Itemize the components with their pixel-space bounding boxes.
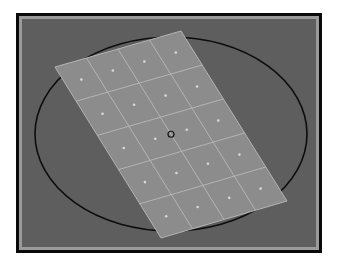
face-center-dot-icon[interactable] — [207, 162, 210, 165]
face-center-dot-icon[interactable] — [143, 60, 146, 63]
face-center-dot-icon[interactable] — [112, 69, 115, 72]
face-center-dot-icon[interactable] — [228, 197, 231, 200]
face-center-dot-icon[interactable] — [259, 187, 262, 190]
face-center-dot-icon[interactable] — [185, 128, 188, 131]
face-center-dot-icon[interactable] — [133, 103, 136, 106]
plane-grid[interactable] — [55, 31, 287, 238]
face-center-dot-icon[interactable] — [101, 112, 104, 115]
viewport-bevel — [19, 16, 319, 250]
scene[interactable] — [22, 19, 316, 247]
face-center-dot-icon[interactable] — [164, 94, 167, 97]
viewport-frame — [16, 13, 322, 253]
viewport-canvas[interactable] — [22, 19, 316, 247]
face-center-dot-icon[interactable] — [217, 119, 220, 122]
face-center-dot-icon[interactable] — [154, 138, 157, 141]
face-center-dot-icon[interactable] — [196, 206, 199, 209]
face-center-dot-icon[interactable] — [165, 215, 168, 218]
face-center-dot-icon[interactable] — [122, 147, 125, 150]
face-center-dot-icon[interactable] — [196, 85, 199, 88]
face-center-dot-icon[interactable] — [80, 78, 83, 81]
face-center-dot-icon[interactable] — [144, 181, 147, 184]
face-center-dot-icon[interactable] — [175, 172, 178, 175]
face-center-dot-icon[interactable] — [175, 51, 178, 54]
face-center-dot-icon[interactable] — [238, 153, 241, 156]
